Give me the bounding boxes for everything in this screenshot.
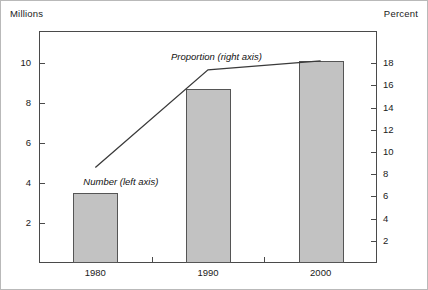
right-axis-tick-16: 16 [383, 81, 394, 91]
right-axis-tick-18: 18 [383, 58, 394, 68]
left-axis-tick-labels: 246810 [1, 31, 31, 263]
plot-svg [39, 31, 377, 263]
series-label-number: Number (left axis) [83, 176, 158, 187]
left-axis-tick-10: 10 [20, 58, 31, 68]
right-axis-tick-12: 12 [383, 125, 394, 135]
left-axis-tick-8: 8 [26, 98, 31, 108]
right-axis-tick-labels: 24681012141618 [383, 31, 425, 263]
right-axis-unit-label: Percent [384, 8, 418, 19]
left-axis-unit-label: Millions [10, 8, 43, 19]
x-axis-tick-2000: 2000 [310, 267, 331, 278]
right-axis-tick-2: 2 [383, 236, 388, 246]
right-axis-tick-4: 4 [383, 214, 388, 224]
left-axis-tick-4: 4 [26, 178, 31, 188]
plot-area: Number (left axis) Proportion (right axi… [39, 31, 377, 263]
right-axis-tick-14: 14 [383, 103, 394, 113]
x-axis-tick-labels: 198019902000 [39, 267, 377, 283]
right-axis-tick-8: 8 [383, 169, 388, 179]
right-axis-tick-10: 10 [383, 147, 394, 157]
chart-figure: Millions Percent 246810 24681012141618 N… [0, 0, 428, 290]
left-axis-tick-2: 2 [26, 218, 31, 228]
x-axis-tick-1980: 1980 [85, 267, 106, 278]
left-axis-tick-6: 6 [26, 138, 31, 148]
series-label-proportion: Proportion (right axis) [171, 51, 262, 62]
x-axis-tick-1990: 1990 [197, 267, 218, 278]
right-axis-tick-6: 6 [383, 192, 388, 202]
